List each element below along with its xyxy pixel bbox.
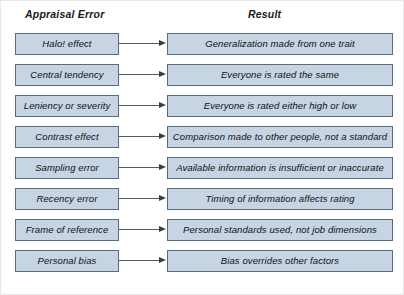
result-label: Timing of information affects rating: [205, 194, 354, 204]
appraisal-error-label: Sampling error: [35, 163, 99, 173]
arrow-head: [159, 133, 166, 139]
arrow-head: [159, 102, 166, 108]
diagram-row: Contrast effectComparison made to other …: [0, 126, 404, 148]
appraisal-error-label: Halo! effect: [42, 39, 91, 49]
arrow-shaft: [119, 167, 160, 168]
appraisal-error-label: Recency error: [37, 194, 98, 204]
result-label: Personal standards used, not job dimensi…: [183, 225, 377, 235]
diagram-row: Leniency or severityEveryone is rated ei…: [0, 95, 404, 117]
arrow-icon: [119, 167, 167, 169]
result-box[interactable]: Everyone is rated either high or low: [167, 95, 393, 117]
arrow-icon: [119, 43, 167, 45]
arrow-icon: [119, 198, 167, 200]
appraisal-error-label: Leniency or severity: [24, 101, 110, 111]
arrow-icon: [119, 105, 167, 107]
result-label: Generalization made from one trait: [205, 39, 355, 49]
diagram-row: Central tendencyEveryone is rated the sa…: [0, 64, 404, 86]
result-box[interactable]: Generalization made from one trait: [167, 33, 393, 55]
appraisal-error-box[interactable]: Central tendency: [15, 64, 119, 86]
result-label: Everyone is rated the same: [221, 70, 339, 80]
result-label: Comparison made to other people, not a s…: [173, 132, 387, 142]
arrow-shaft: [119, 260, 160, 261]
appraisal-error-box[interactable]: Personal bias: [15, 250, 119, 272]
appraisal-error-box[interactable]: Halo! effect: [15, 33, 119, 55]
result-label: Bias overrides other factors: [221, 256, 339, 266]
arrow-head: [159, 71, 166, 77]
appraisal-error-label: Personal bias: [38, 256, 97, 266]
diagram-rows: Halo! effectGeneralization made from one…: [0, 0, 404, 295]
appraisal-error-box[interactable]: Leniency or severity: [15, 95, 119, 117]
arrow-shaft: [119, 43, 160, 44]
result-box[interactable]: Available information is insufficient or…: [167, 157, 393, 179]
arrow-shaft: [119, 198, 160, 199]
appraisal-error-box[interactable]: Frame of reference: [15, 219, 119, 241]
arrow-shaft: [119, 136, 160, 137]
diagram-row: Frame of referencePersonal standards use…: [0, 219, 404, 241]
arrow-head: [159, 40, 166, 46]
result-box[interactable]: Comparison made to other people, not a s…: [167, 126, 393, 148]
result-box[interactable]: Bias overrides other factors: [167, 250, 393, 272]
arrow-shaft: [119, 105, 160, 106]
appraisal-error-box[interactable]: Contrast effect: [15, 126, 119, 148]
arrow-icon: [119, 74, 167, 76]
arrow-shaft: [119, 229, 160, 230]
result-box[interactable]: Timing of information affects rating: [167, 188, 393, 210]
diagram-row: Halo! effectGeneralization made from one…: [0, 33, 404, 55]
appraisal-error-box[interactable]: Recency error: [15, 188, 119, 210]
diagram-row: Recency errorTiming of information affec…: [0, 188, 404, 210]
appraisal-error-label: Contrast effect: [35, 132, 98, 142]
result-box[interactable]: Personal standards used, not job dimensi…: [167, 219, 393, 241]
arrow-head: [159, 164, 166, 170]
arrow-icon: [119, 229, 167, 231]
result-box[interactable]: Everyone is rated the same: [167, 64, 393, 86]
appraisal-error-label: Central tendency: [30, 70, 103, 80]
appraisal-error-result-diagram: Appraisal Error Result Halo! effectGener…: [0, 0, 404, 295]
arrow-head: [159, 257, 166, 263]
arrow-icon: [119, 136, 167, 138]
result-label: Available information is insufficient or…: [176, 163, 384, 173]
arrow-head: [159, 226, 166, 232]
result-label: Everyone is rated either high or low: [204, 101, 357, 111]
appraisal-error-label: Frame of reference: [26, 225, 109, 235]
diagram-row: Sampling errorAvailable information is i…: [0, 157, 404, 179]
arrow-shaft: [119, 74, 160, 75]
arrow-icon: [119, 260, 167, 262]
appraisal-error-box[interactable]: Sampling error: [15, 157, 119, 179]
diagram-row: Personal biasBias overrides other factor…: [0, 250, 404, 272]
arrow-head: [159, 195, 166, 201]
